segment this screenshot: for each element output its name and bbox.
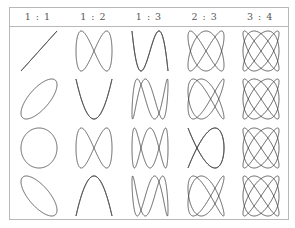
lissajous-curve xyxy=(130,174,170,218)
lissajous-curve xyxy=(130,77,170,121)
figure-grid xyxy=(10,27,288,220)
column-header-3-4: 3 : 4 xyxy=(232,8,288,26)
lissajous-curve xyxy=(241,77,281,121)
lissajous-curve xyxy=(74,126,114,170)
column-header-1-3: 1 : 3 xyxy=(121,8,177,26)
lissajous-curve xyxy=(186,29,226,73)
column-header-1-2: 1 : 2 xyxy=(66,8,122,26)
lissajous-figure-table: 1 : 1 1 : 2 1 : 3 2 : 3 3 : 4 xyxy=(9,7,289,220)
lissajous-curve xyxy=(241,29,281,73)
lissajous-curve xyxy=(241,174,281,218)
lissajous-curve xyxy=(19,126,59,170)
column-header-1-1: 1 : 1 xyxy=(10,8,66,26)
lissajous-curve xyxy=(130,126,170,170)
lissajous-curve xyxy=(241,126,281,170)
lissajous-curve xyxy=(19,174,59,218)
lissajous-curve xyxy=(74,29,114,73)
lissajous-curve xyxy=(186,174,226,218)
lissajous-curve xyxy=(19,29,59,73)
lissajous-curve xyxy=(186,126,226,170)
column-header-2-3: 2 : 3 xyxy=(177,8,233,26)
lissajous-curve xyxy=(130,29,170,73)
lissajous-curve xyxy=(19,77,59,121)
lissajous-curve xyxy=(186,77,226,121)
lissajous-curve xyxy=(74,174,114,218)
table-header: 1 : 1 1 : 2 1 : 3 2 : 3 3 : 4 xyxy=(10,8,288,27)
lissajous-curve xyxy=(74,77,114,121)
